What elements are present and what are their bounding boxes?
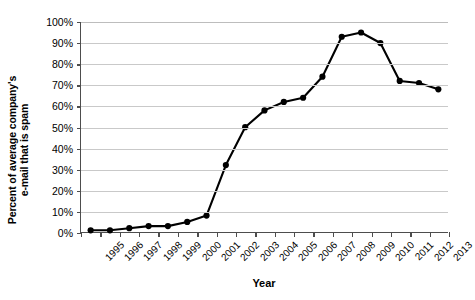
x-axis-tick-label: 1996 <box>123 240 146 263</box>
x-axis-tick-label: 2002 <box>239 240 262 263</box>
y-axis-tick-mark <box>77 85 81 86</box>
y-axis-tick-label: 40% <box>0 144 73 155</box>
x-axis-tick-label: 2004 <box>278 240 301 263</box>
data-point-marker <box>165 223 171 229</box>
x-axis-title: Year <box>80 277 448 289</box>
data-point-marker <box>397 78 403 84</box>
y-axis-tick-label: 100% <box>0 17 73 28</box>
plot-area <box>80 22 448 233</box>
x-axis-tick-label: 2010 <box>394 240 417 263</box>
plot-inner <box>81 22 448 232</box>
y-axis-tick-mark <box>77 212 81 213</box>
y-axis-tick-mark <box>77 22 81 23</box>
x-axis-tick-mark <box>158 232 159 237</box>
data-point-marker <box>319 74 325 80</box>
data-point-marker <box>146 223 152 229</box>
x-axis-tick-mark <box>410 232 411 237</box>
y-axis-tick-mark <box>77 43 81 44</box>
x-axis-tick-label: 1995 <box>103 240 126 263</box>
x-axis-tick-mark <box>430 232 431 237</box>
data-point-marker <box>126 225 132 231</box>
x-axis-tick-mark <box>120 232 121 237</box>
x-axis-tick-label: 2013 <box>452 240 475 263</box>
gridline <box>81 85 448 86</box>
x-axis-tick-label: 1997 <box>142 240 165 263</box>
x-axis-tick-mark <box>372 232 373 237</box>
y-axis-tick-label: 80% <box>0 59 73 70</box>
gridline <box>81 149 448 150</box>
x-axis-tick-mark <box>255 232 256 237</box>
y-axis-tick-label: 90% <box>0 38 73 49</box>
data-point-marker <box>88 227 94 233</box>
x-axis-tick-mark <box>275 232 276 237</box>
x-axis-tick-label: 2005 <box>297 240 320 263</box>
x-axis-tick-label: 1999 <box>181 240 204 263</box>
y-axis-tick-mark <box>77 64 81 65</box>
data-point-marker <box>358 29 364 35</box>
x-axis-tick-mark <box>333 232 334 237</box>
y-axis-tick-mark <box>77 149 81 150</box>
x-axis-tick-mark <box>449 232 450 237</box>
x-axis-tick-mark <box>236 232 237 237</box>
x-axis-tick-mark <box>217 232 218 237</box>
x-axis-tick-label: 2009 <box>374 240 397 263</box>
x-axis-tick-label: 2007 <box>336 240 359 263</box>
series-polyline <box>91 33 439 231</box>
x-axis-tick-label: 2000 <box>200 240 223 263</box>
data-point-marker <box>339 34 345 40</box>
gridline <box>81 191 448 192</box>
gridline <box>81 106 448 107</box>
x-axis-tick-label: 2001 <box>219 240 242 263</box>
gridline <box>81 212 448 213</box>
x-axis-tick-mark <box>294 232 295 237</box>
data-point-marker <box>261 107 267 113</box>
x-axis-tick-label: 2012 <box>432 240 455 263</box>
y-axis-tick-label: 50% <box>0 123 73 134</box>
x-axis-tick-label: 1998 <box>161 240 184 263</box>
x-axis-tick-mark <box>178 232 179 237</box>
x-axis-tick-label: 2006 <box>316 240 339 263</box>
data-point-marker <box>184 219 190 225</box>
y-axis-tick-label: 10% <box>0 207 73 218</box>
x-axis-tick-mark <box>100 232 101 237</box>
y-axis-tick-label: 30% <box>0 165 73 176</box>
x-axis-tick-mark <box>139 232 140 237</box>
x-axis-tick-label: 2011 <box>413 240 435 262</box>
gridline <box>81 64 448 65</box>
x-axis-tick-mark <box>81 232 82 237</box>
x-axis-tick-label: 2008 <box>355 240 378 263</box>
y-axis-tick-mark <box>77 191 81 192</box>
gridline <box>81 22 448 23</box>
x-axis-tick-mark <box>313 232 314 237</box>
data-point-marker <box>281 99 287 105</box>
y-axis-tick-mark <box>77 170 81 171</box>
y-axis-tick-label: 20% <box>0 186 73 197</box>
x-axis-tick-mark <box>352 232 353 237</box>
gridline <box>81 170 448 171</box>
data-point-marker <box>435 86 441 92</box>
data-point-marker <box>300 95 306 101</box>
y-axis-tick-label: 70% <box>0 80 73 91</box>
data-point-marker <box>107 227 113 233</box>
x-axis-tick-mark <box>197 232 198 237</box>
data-point-marker <box>223 162 229 168</box>
data-point-marker <box>203 212 209 218</box>
gridline <box>81 128 448 129</box>
y-axis-tick-label: 60% <box>0 101 73 112</box>
x-axis-tick-label: 2003 <box>258 240 281 263</box>
x-axis-tick-mark <box>391 232 392 237</box>
y-axis-tick-mark <box>77 106 81 107</box>
y-axis-tick-mark <box>77 128 81 129</box>
gridline <box>81 43 448 44</box>
y-axis-tick-label: 0% <box>0 228 73 239</box>
